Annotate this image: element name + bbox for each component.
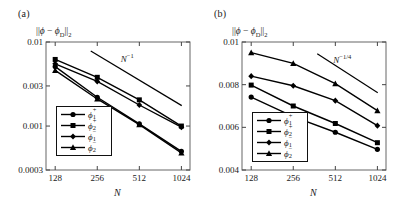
data-marker-circle: [70, 112, 75, 117]
legend-label: ϕ−2: [88, 142, 98, 153]
data-marker-square: [71, 123, 76, 128]
y-tick-label: 0.008: [219, 80, 239, 90]
y-tick-label: 0.004: [219, 165, 239, 175]
y-tick-label: 0.006: [219, 122, 239, 132]
panel-a: (a)||ϕ − ϕD||20.010.0030.0010.0003128256…: [0, 0, 196, 204]
data-marker-diamond: [248, 73, 254, 79]
legend-marker-diamond: [256, 137, 282, 148]
data-marker-circle: [249, 94, 254, 99]
legend-marker-triangle: [60, 142, 86, 153]
legend-marker-circle: [256, 115, 282, 126]
legend-item: ϕ−1: [60, 131, 108, 142]
legend-marker-triangle: [256, 148, 282, 159]
slope-annotation: N−1/4: [333, 53, 351, 65]
legend-item: ϕ+2: [60, 120, 108, 131]
legend-item: ϕ−2: [60, 142, 108, 153]
data-marker-diamond: [374, 123, 380, 129]
x-tick-label: 1024: [172, 173, 190, 183]
data-marker-circle: [375, 147, 380, 152]
data-marker-square: [267, 129, 272, 134]
x-tick-label: 1024: [368, 173, 386, 183]
legend-marker-square: [60, 120, 86, 131]
data-marker-triangle: [374, 107, 380, 113]
legend-label: ϕ−2: [284, 148, 294, 159]
legend: ϕ+1ϕ+2ϕ−1ϕ−2: [56, 106, 112, 156]
figure-container: (a)||ϕ − ϕD||20.010.0030.0010.0003128256…: [0, 0, 393, 204]
legend: ϕ+1ϕ+2ϕ−1ϕ−2: [252, 112, 308, 162]
x-axis-label: N: [310, 187, 317, 198]
legend-item: ϕ−2: [256, 148, 304, 159]
y-tick-label: 0.003: [23, 81, 43, 91]
panel-b: (b)||ϕ − ϕD||20.010.0080.0060.0041282565…: [196, 0, 392, 204]
x-tick-label: 512: [133, 173, 147, 183]
data-marker-square: [137, 97, 142, 102]
y-tick-label: 0.0003: [18, 165, 43, 175]
legend-item: ϕ−1: [256, 137, 304, 148]
data-marker-triangle: [248, 49, 254, 55]
x-axis-label: N: [114, 187, 121, 198]
y-tick-label: 0.01: [27, 37, 43, 47]
data-marker-square: [249, 83, 254, 88]
legend-item: ϕ+1: [60, 109, 108, 120]
legend-marker-diamond: [60, 131, 86, 142]
x-tick-label: 128: [244, 173, 258, 183]
legend-item: ϕ+1: [256, 115, 304, 126]
x-tick-label: 256: [287, 173, 301, 183]
x-tick-label: 128: [48, 173, 62, 183]
data-marker-diamond: [290, 83, 296, 89]
data-marker-circle: [266, 118, 271, 123]
data-marker-diamond: [136, 102, 142, 108]
y-tick-label: 0.001: [23, 121, 43, 131]
x-tick-label: 512: [329, 173, 343, 183]
data-marker-square: [291, 104, 296, 109]
x-tick-label: 256: [91, 173, 105, 183]
data-marker-diamond: [266, 139, 272, 145]
legend-marker-circle: [60, 109, 86, 120]
legend-item: ϕ+2: [256, 126, 304, 137]
data-marker-circle: [333, 130, 338, 135]
legend-marker-square: [256, 126, 282, 137]
data-marker-square: [375, 140, 380, 145]
y-tick-label: 0.01: [223, 37, 239, 47]
data-marker-diamond: [332, 98, 338, 104]
data-marker-square: [333, 121, 338, 126]
slope-annotation: N−1: [121, 52, 134, 64]
series-line-triangle: [251, 53, 377, 111]
data-marker-diamond: [70, 133, 76, 139]
